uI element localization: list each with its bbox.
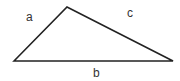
triangle-shape <box>14 7 173 61</box>
triangle-diagram: a c b <box>0 0 180 81</box>
side-label-a: a <box>26 10 33 24</box>
side-label-c: c <box>127 6 133 20</box>
side-label-b: b <box>93 66 100 80</box>
